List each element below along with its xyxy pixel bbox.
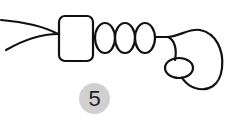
strand-left-upper [1,20,58,34]
bead-strand-diagram [0,0,226,123]
oval-pendant [165,58,193,78]
step-number-badge: 5 [79,83,110,114]
loop-cord-inner [168,37,176,60]
oval-bead-1 [95,23,115,53]
strand-left-lower [6,34,58,50]
loop-cord [155,30,222,90]
rectangle-bead [59,16,93,61]
step-number: 5 [88,86,100,112]
oval-bead-2 [115,23,135,53]
oval-bead-3 [135,23,155,53]
